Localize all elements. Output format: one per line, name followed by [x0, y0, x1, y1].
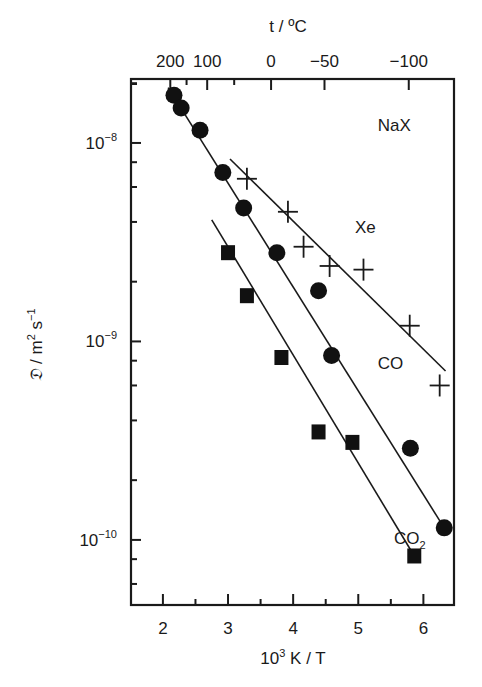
x-tick-label: 6: [419, 619, 428, 638]
x-axis-title: 103 K / T: [260, 647, 325, 668]
data-point-co2: [345, 435, 359, 450]
fit-line-co2: [212, 220, 415, 556]
data-point-xe: [320, 255, 340, 277]
top-tick-label: 0: [266, 52, 275, 71]
data-point-co2: [312, 424, 326, 439]
annotation-text: NaX: [378, 116, 411, 135]
data-point-co: [436, 519, 453, 536]
y-tick-label-exponent: −8: [104, 131, 117, 143]
annotation-label: Xe: [355, 218, 376, 237]
annotation-subscript: 2: [420, 539, 426, 551]
data-point-xe: [400, 315, 420, 337]
y-axis-title-unit2: s: [27, 321, 46, 334]
y-axis-title-symbol: 𝔇: [26, 368, 46, 382]
x-axis-title-base: 10: [260, 649, 279, 668]
data-point-xe: [237, 168, 257, 190]
y-tick-label-base: 10: [86, 134, 105, 153]
y-tick-label-exponent: −9: [104, 329, 117, 341]
y-tick-label: 10−10: [79, 528, 117, 550]
data-point-co2: [221, 245, 235, 260]
data-point-co: [268, 244, 285, 261]
fit-line-xe: [230, 159, 446, 371]
y-tick-label: 10−9: [86, 329, 117, 351]
y-tick-label-base: 10: [79, 531, 98, 550]
annotation-text: CO: [378, 354, 404, 373]
data-point-co: [310, 282, 327, 299]
annotation-text: CO: [394, 529, 420, 548]
data-point-xe: [430, 374, 450, 396]
plot-frame: [131, 79, 454, 605]
x-tick-label: 5: [354, 619, 363, 638]
data-point-xe: [353, 259, 373, 281]
data-point-co: [173, 100, 190, 117]
top-tick-label: −50: [310, 52, 339, 71]
y-tick-label-exponent: −10: [98, 528, 117, 540]
annotation-label: CO2: [394, 529, 426, 551]
y-tick-label-base: 10: [86, 332, 105, 351]
y-axis-title-sup2: −1: [25, 308, 37, 321]
annotation-label: CO: [378, 354, 404, 373]
x-axis-title-rest: K / T: [285, 649, 325, 668]
data-point-co2: [240, 288, 254, 303]
data-point-co: [235, 200, 252, 217]
y-axis-title-unit1: / m: [27, 340, 46, 368]
fit-line-co: [168, 88, 444, 528]
x-tick-label: 2: [158, 619, 167, 638]
top-tick-label: 200: [156, 52, 184, 71]
x-tick-label: 4: [288, 619, 297, 638]
data-point-co: [192, 122, 209, 139]
x-tick-label: 3: [223, 619, 232, 638]
y-tick-label: 10−8: [86, 131, 117, 153]
data-point-co: [214, 164, 231, 181]
annotation-text: Xe: [355, 218, 376, 237]
top-tick-label: 100: [193, 52, 221, 71]
y-axis-title: 𝔇 / m2 s−1: [25, 308, 46, 381]
chart: 234562001000−50−10010−810−910−10 t / ºC …: [0, 0, 482, 687]
top-tick-label: −100: [390, 52, 428, 71]
data-point-co2: [274, 350, 288, 365]
top-axis-title: t / ºC: [269, 17, 306, 36]
annotation-label: NaX: [378, 116, 411, 135]
data-point-xe: [278, 201, 298, 223]
data-point-co: [402, 440, 419, 457]
data-point-co: [323, 347, 340, 364]
